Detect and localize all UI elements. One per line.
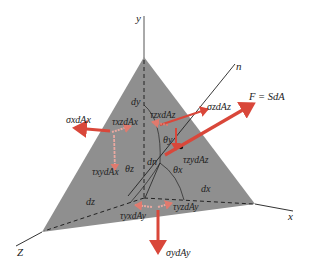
dy-label: dy xyxy=(131,96,141,107)
theta-x-label: θx xyxy=(173,164,183,175)
tau-zx-label: τzxdAz xyxy=(150,110,176,120)
normal-label: n xyxy=(236,60,242,72)
stress-tetrahedron-diagram: y Z x n dy dz dx dn θy θx θz F = SdA σzd… xyxy=(0,0,309,271)
sigma-z-label: σzdAz xyxy=(207,101,231,112)
dz-label: dz xyxy=(86,196,95,207)
tau-xz-label: τxzdAx xyxy=(112,117,139,127)
tau-zy-label: τzydAz xyxy=(183,155,209,165)
x-axis-label: x xyxy=(287,210,293,222)
dn-label: dn xyxy=(147,156,157,167)
z-axis xyxy=(16,232,42,246)
tau-xy-arrow xyxy=(114,135,115,170)
sigma-x-label: σxdAx xyxy=(66,114,91,125)
tau-xy-label: τxydAx xyxy=(92,167,119,177)
theta-y-label: θy xyxy=(163,134,173,145)
sigma-y-label: σydAy xyxy=(166,247,191,258)
z-axis-label: Z xyxy=(17,246,24,258)
resultant-force-label: F = SdA xyxy=(248,91,285,102)
tau-yz-label: τyzdAy xyxy=(173,202,199,212)
theta-z-label: θz xyxy=(125,163,134,174)
dx-label: dx xyxy=(201,183,211,194)
y-axis-label: y xyxy=(135,12,141,24)
tau-yx-label: τyxdAy xyxy=(120,211,147,221)
